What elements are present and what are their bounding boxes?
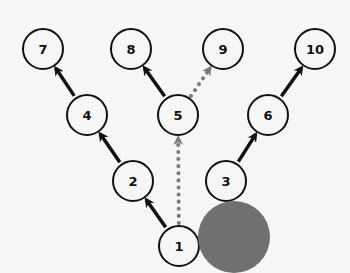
node-4: 4 — [67, 95, 107, 135]
node-6: 6 — [248, 95, 288, 135]
node-label: 7 — [38, 42, 47, 57]
edges-layer — [56, 68, 302, 227]
edge-1-to-5-arrow — [178, 138, 179, 223]
edge-6-to-10-arrow — [281, 68, 301, 97]
node-label: 6 — [263, 108, 272, 123]
node-8: 8 — [111, 29, 151, 69]
node-label: 9 — [218, 42, 227, 57]
node-10: 10 — [295, 29, 335, 69]
node-label: 3 — [221, 174, 230, 189]
nodes-layer: 12345678910 — [23, 29, 335, 266]
diagram-canvas: 12345678910 — [0, 0, 350, 273]
tree-diagram: 12345678910 — [0, 0, 350, 273]
edge-3-to-6-arrow — [238, 134, 255, 161]
node-label: 10 — [306, 42, 324, 57]
node-label: 1 — [174, 239, 183, 254]
node-label: 2 — [128, 174, 137, 189]
node-1: 1 — [159, 226, 199, 266]
node-label: 8 — [126, 42, 135, 57]
edge-5-to-8-arrow — [144, 68, 164, 97]
node-label: 4 — [82, 108, 91, 123]
node-2: 2 — [113, 161, 153, 201]
node-7: 7 — [23, 29, 63, 69]
gray-blob-circle — [198, 201, 270, 273]
node-9: 9 — [203, 29, 243, 69]
edge-1-to-2-arrow — [146, 200, 165, 227]
node-3: 3 — [206, 161, 246, 201]
blob-layer — [198, 201, 270, 273]
edge-5-to-9-arrow — [191, 68, 210, 96]
edge-4-to-7-arrow — [56, 68, 74, 96]
node-5: 5 — [158, 95, 198, 135]
edge-2-to-4-arrow — [100, 134, 120, 162]
node-label: 5 — [173, 108, 182, 123]
